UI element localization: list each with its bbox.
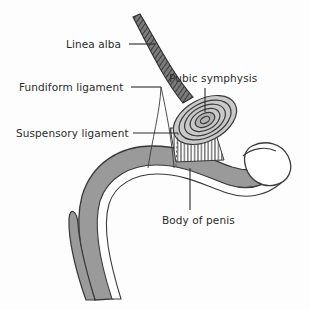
label-linea-alba: Linea alba: [66, 38, 121, 50]
label-suspensory-ligament: Suspensory ligament: [16, 127, 129, 139]
label-pubic-symphysis: Pubic symphysis: [169, 72, 257, 84]
linea-alba-structure: [133, 14, 193, 103]
anatomical-figure: Linea alba Fundiform ligament Suspensory…: [0, 0, 310, 310]
label-body-of-penis: Body of penis: [162, 214, 235, 226]
anatomy-illustration: [0, 0, 310, 310]
linea-alba-band: [133, 14, 193, 103]
label-fundiform-ligament: Fundiform ligament: [19, 81, 123, 93]
